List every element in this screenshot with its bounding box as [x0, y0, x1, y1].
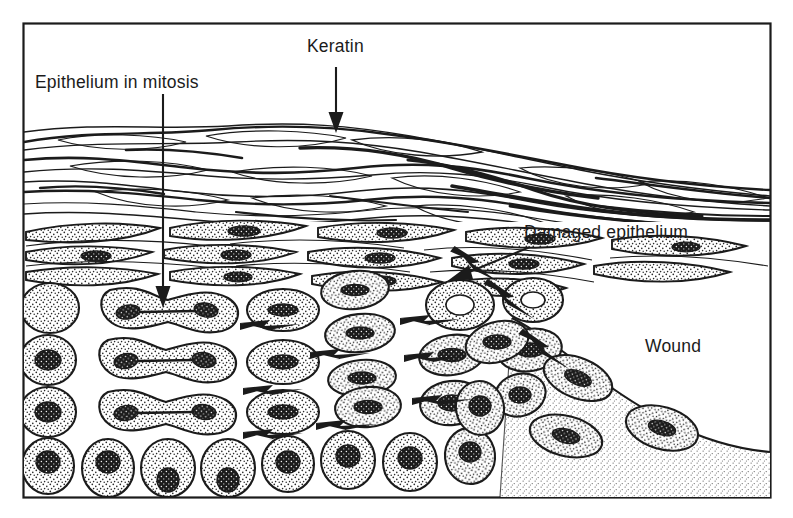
- label-damaged-epithelium: Damaged epithelium: [524, 222, 688, 242]
- wound-healing-diagram: Epithelium in mitosis Keratin Damaged ep…: [0, 0, 793, 518]
- label-epithelium-in-mitosis: Epithelium in mitosis: [35, 72, 199, 92]
- label-wound: Wound: [645, 336, 701, 356]
- label-keratin: Keratin: [307, 36, 364, 56]
- figure-canvas: Epithelium in mitosis Keratin Damaged ep…: [0, 0, 793, 518]
